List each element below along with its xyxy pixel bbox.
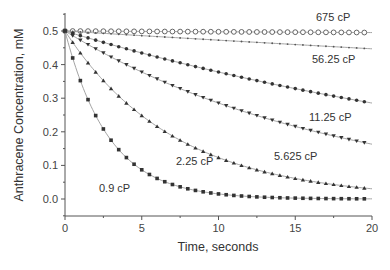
marker-open-circle [354, 30, 359, 35]
marker-filled-circle [201, 67, 205, 71]
marker-dot [333, 46, 335, 48]
marker-dot [340, 46, 342, 48]
marker-filled-square [171, 183, 175, 187]
marker-dot [149, 35, 151, 37]
marker-dot [118, 33, 120, 35]
marker-filled-circle [178, 61, 182, 65]
marker-filled-square [232, 194, 236, 198]
marker-dot [187, 37, 189, 39]
marker-dot [141, 35, 143, 37]
marker-open-circle [170, 29, 175, 34]
marker-open-circle [155, 29, 160, 34]
series-label: 56.25 cP [312, 53, 355, 65]
marker-open-circle [162, 29, 167, 34]
marker-filled-square [148, 173, 152, 177]
marker-down-triangle [78, 39, 82, 43]
marker-filled-circle [355, 99, 359, 103]
marker-filled-square [178, 185, 182, 189]
marker-dot [356, 47, 358, 49]
marker-open-circle [178, 29, 183, 34]
series-label: 5.625 cP [274, 150, 317, 162]
marker-filled-circle [232, 74, 236, 78]
marker-filled-square [255, 195, 259, 199]
marker-dot [256, 41, 258, 43]
marker-filled-square [301, 196, 305, 200]
y-tick-label: 0.4 [43, 59, 58, 71]
marker-open-circle [301, 30, 306, 35]
series-label: 2.25 cP [176, 155, 213, 167]
marker-filled-square [270, 196, 274, 200]
marker-open-circle [285, 30, 290, 35]
marker-open-circle [116, 29, 121, 34]
marker-filled-square [247, 195, 251, 199]
marker-filled-circle [293, 87, 297, 91]
marker-up-triangle [193, 146, 197, 150]
marker-filled-circle [263, 80, 267, 84]
marker-dot [317, 45, 319, 47]
marker-filled-circle [155, 55, 159, 59]
marker-filled-circle [117, 45, 121, 49]
y-tick-label: 0.5 [43, 25, 58, 37]
marker-filled-square [125, 156, 129, 160]
marker-open-circle [124, 29, 129, 34]
marker-filled-square [102, 127, 106, 131]
marker-dot [218, 39, 220, 41]
marker-dot [294, 44, 296, 46]
marker-down-triangle [117, 59, 121, 63]
marker-dot [126, 34, 128, 36]
marker-filled-square [286, 196, 290, 200]
marker-filled-circle [316, 91, 320, 95]
marker-open-circle [339, 30, 344, 35]
marker-dot [210, 39, 212, 41]
marker-dot [164, 36, 166, 38]
marker-filled-square [263, 195, 267, 199]
marker-down-triangle [140, 70, 144, 74]
marker-filled-square [155, 177, 159, 181]
marker-filled-square [86, 98, 90, 102]
marker-dot [287, 43, 289, 45]
marker-open-circle [139, 29, 144, 34]
marker-dot [225, 40, 227, 42]
marker-filled-square [340, 197, 344, 201]
marker-filled-square [132, 162, 136, 166]
x-tick-label: 10 [212, 222, 224, 234]
marker-filled-circle [255, 79, 259, 83]
marker-filled-circle [347, 97, 351, 101]
marker-open-circle [208, 29, 213, 34]
marker-dot [95, 32, 97, 34]
x-tick-label: 15 [289, 222, 301, 234]
marker-dot [241, 41, 243, 43]
marker-dot [348, 47, 350, 49]
marker-filled-square [324, 197, 328, 201]
marker-filled-circle [86, 36, 90, 40]
marker-open-circle [147, 29, 152, 34]
marker-filled-circle [309, 90, 313, 94]
marker-open-circle [132, 29, 137, 34]
marker-filled-circle [240, 75, 244, 79]
marker-open-circle [278, 30, 283, 35]
marker-filled-square [71, 56, 75, 60]
marker-dot [195, 38, 197, 40]
marker-down-triangle [109, 55, 113, 59]
y-tick-label: 0.2 [43, 126, 58, 138]
marker-open-circle [193, 29, 198, 34]
marker-filled-circle [340, 96, 344, 100]
marker-filled-circle [217, 70, 221, 74]
marker-open-circle [254, 30, 259, 35]
marker-dot [264, 42, 266, 44]
marker-open-circle [270, 30, 275, 35]
marker-open-circle [347, 30, 352, 35]
marker-down-triangle [70, 34, 74, 38]
marker-filled-circle [363, 100, 367, 104]
marker-filled-circle [209, 68, 213, 72]
marker-open-circle [247, 30, 252, 35]
marker-open-circle [262, 30, 267, 35]
marker-down-triangle [86, 43, 90, 47]
y-tick-label: 0.1 [43, 159, 58, 171]
marker-filled-square [316, 197, 320, 201]
y-tick-label: 0.3 [43, 92, 58, 104]
marker-up-triangle [170, 134, 174, 138]
marker-filled-circle [324, 93, 328, 97]
marker-filled-square [63, 29, 67, 33]
series-label: 11.25 cP [309, 111, 352, 123]
